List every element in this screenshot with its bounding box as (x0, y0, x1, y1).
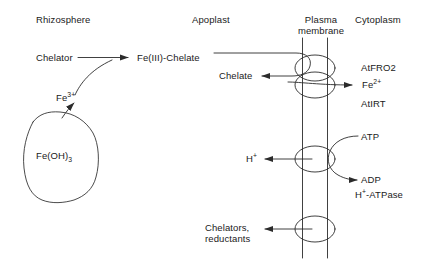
label-h-atpase: H+-ATPase (355, 189, 403, 200)
label-h-atpase-rest: -ATPase (366, 189, 403, 200)
label-atfro2: AtFRO2 (361, 62, 396, 73)
label-fe3plus-base: Fe (56, 92, 67, 103)
arrow-fe2-uptake (288, 82, 352, 85)
label-fe2plus-base: Fe (362, 79, 373, 90)
label-fe3plus: Fe3+ (56, 92, 75, 103)
header-plasma-membrane-line1: Plasma (297, 14, 345, 25)
header-rhizosphere: Rhizosphere (36, 14, 90, 25)
label-fe-oh-3-subscript: 3 (68, 156, 72, 163)
label-fe3-chelate: Fe(III)-Chelate (137, 52, 200, 63)
header-plasma-membrane-line2: membrane (292, 25, 350, 36)
label-adp: ADP (361, 174, 381, 185)
curve-atp-to-adp (328, 136, 358, 180)
label-h-plus-charge: + (253, 152, 257, 159)
label-chelators-line2: reductants (205, 233, 250, 244)
label-fe-oh-3: Fe(OH)3 (36, 150, 72, 161)
label-fe2plus: Fe2+ (362, 79, 381, 90)
label-fe2plus-charge: 2+ (373, 78, 381, 85)
arrow-dissolution (62, 103, 74, 118)
label-atp: ATP (361, 131, 379, 142)
label-h-plus-base: H (246, 153, 253, 164)
label-chelators-line1: Chelators, (205, 222, 249, 233)
atirt-ellipse (295, 72, 335, 98)
label-h-plus: H+ (246, 153, 257, 164)
label-atirt: AtIRT (361, 98, 386, 109)
label-h-atpase-base: H (355, 189, 362, 200)
atfro2-ellipse (295, 55, 335, 81)
header-apoplast: Apoplast (192, 14, 230, 25)
header-cytoplasm: Cytoplasm (355, 14, 401, 25)
label-chelate: Chelate (219, 70, 252, 81)
diagram-canvas: Rhizosphere Apoplast Plasma membrane Cyt… (0, 0, 421, 263)
label-fe-oh-3-base: Fe(OH) (36, 150, 68, 161)
label-chelator: Chelator (36, 52, 73, 63)
label-fe3plus-charge: 3+ (67, 91, 75, 98)
curve-fe3-to-chelation (75, 60, 112, 95)
